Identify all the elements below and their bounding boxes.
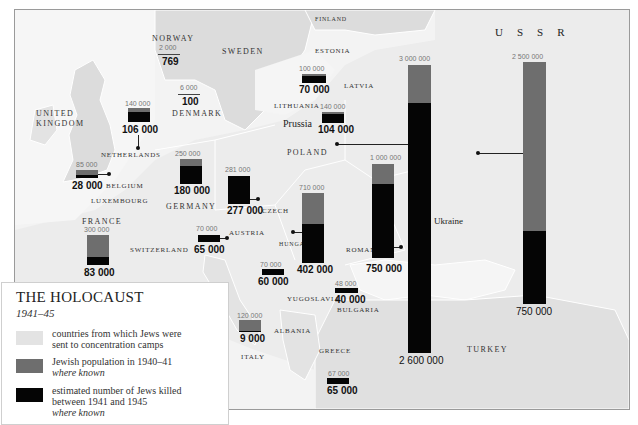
legend-swatch-jews-killed bbox=[16, 388, 43, 402]
belgium-population: 85 000 bbox=[76, 161, 97, 168]
label-latvia: LATVIA bbox=[344, 82, 374, 90]
norway-population: 2 000 bbox=[159, 44, 177, 51]
bulgaria-killed: 40 000 bbox=[335, 294, 366, 305]
legend-item-jewish-population: Jewish population in 1940–41 where known bbox=[52, 356, 224, 378]
romania-marker bbox=[399, 245, 403, 249]
poland-leader bbox=[337, 144, 408, 145]
lithuania-bar bbox=[322, 112, 344, 123]
denmark-killed: 100 bbox=[182, 96, 199, 107]
netherlands-bar bbox=[128, 108, 150, 122]
austria-bar bbox=[198, 235, 220, 242]
label-netherlands: NETHERLANDS bbox=[101, 151, 161, 159]
romania-population: 1 000 000 bbox=[370, 154, 401, 161]
label-prussia: Prussia bbox=[283, 118, 312, 129]
yugoslavia-bar bbox=[262, 269, 284, 275]
norway-divider bbox=[158, 54, 180, 55]
yugoslavia-killed: 60 000 bbox=[258, 276, 289, 287]
label-ukraine: Ukraine bbox=[434, 216, 463, 226]
label-italy: ITALY bbox=[241, 353, 265, 361]
ussr-population: 2 500 000 bbox=[512, 53, 543, 60]
label-czech: CZECH bbox=[262, 207, 289, 215]
latvia-killed: 70 000 bbox=[299, 84, 330, 95]
label-bulgaria: BULGARIA bbox=[337, 306, 380, 314]
map-legend: THE HOLOCAUST 1941–45 countries from whi… bbox=[1, 282, 229, 425]
germany-bar bbox=[180, 159, 202, 184]
netherlands-population: 140 000 bbox=[125, 100, 150, 107]
norway-killed: 769 bbox=[162, 56, 179, 67]
legend-item-jews-killed: estimated number of Jews killed between … bbox=[52, 385, 224, 418]
ussr-killed: 750 000 bbox=[516, 306, 552, 317]
france-bar bbox=[87, 235, 109, 265]
bulgaria-bar bbox=[335, 288, 358, 293]
hungary-bar bbox=[302, 193, 324, 263]
label-united-kingdom-line2: KINGDOM bbox=[36, 119, 84, 128]
label-united-kingdom-line1: UNITED bbox=[36, 109, 74, 118]
ussr-bar bbox=[523, 62, 546, 304]
label-poland: POLAND bbox=[287, 148, 328, 157]
label-france: FRANCE bbox=[82, 217, 122, 226]
label-finland: FINLAND bbox=[315, 16, 347, 22]
label-lithuania: LITHUANIA bbox=[274, 102, 320, 110]
label-greece: GREECE bbox=[319, 347, 351, 355]
ussr-marker bbox=[476, 151, 480, 155]
romania-killed: 750 000 bbox=[366, 263, 402, 274]
yugoslavia-population: 70 000 bbox=[260, 261, 281, 268]
denmark-population: 6 000 bbox=[180, 84, 198, 91]
greece-bar bbox=[327, 378, 349, 384]
france-population: 300 000 bbox=[84, 226, 109, 233]
czech-bar bbox=[228, 176, 250, 204]
label-belgium: BELGIUM bbox=[106, 182, 144, 190]
netherlands-killed: 106 000 bbox=[122, 124, 158, 135]
hungary-killed: 402 000 bbox=[297, 264, 333, 275]
bulgaria-population: 48 000 bbox=[335, 280, 356, 287]
label-germany: GERMANY bbox=[166, 202, 216, 211]
ussr-leader bbox=[478, 153, 523, 154]
italy-bar bbox=[239, 320, 261, 332]
legend-subtitle: 1941–45 bbox=[16, 307, 55, 319]
legend-swatch-deporting-countries bbox=[16, 331, 43, 345]
austria-marker bbox=[225, 236, 229, 240]
label-yugoslavia: YUGOSLAVIA bbox=[287, 295, 340, 303]
germany-population: 250 000 bbox=[175, 150, 200, 157]
czech-population: 281 000 bbox=[225, 166, 250, 173]
label-ussr: USSR bbox=[495, 26, 579, 38]
hungary-leader bbox=[294, 232, 302, 233]
legend-swatch-jewish-population bbox=[16, 359, 43, 373]
latvia-bar bbox=[302, 74, 326, 83]
label-switzerland: SWITZERLAND bbox=[130, 246, 189, 254]
italy-population: 120 000 bbox=[237, 312, 262, 319]
belgium-killed: 28 000 bbox=[72, 180, 103, 191]
legend-title: THE HOLOCAUST bbox=[16, 289, 144, 306]
poland-killed: 2 600 000 bbox=[399, 355, 444, 366]
greece-population: 67 000 bbox=[328, 370, 349, 377]
hungary-marker bbox=[291, 230, 295, 234]
denmark-divider bbox=[178, 94, 200, 95]
hungary-population: 710 000 bbox=[299, 184, 324, 191]
label-luxembourg: LUXEMBOURG bbox=[91, 197, 148, 205]
lithuania-population: 140 000 bbox=[320, 103, 345, 110]
lithuania-killed: 104 000 bbox=[318, 124, 354, 135]
austria-killed: 65 000 bbox=[194, 244, 225, 255]
label-estonia: ESTONIA bbox=[315, 47, 350, 55]
label-denmark: DENMARK bbox=[172, 109, 222, 118]
belgium-bar bbox=[76, 170, 98, 178]
france-killed: 83 000 bbox=[84, 267, 115, 278]
label-turkey: TURKEY bbox=[467, 345, 508, 354]
label-austria: AUSTRIA bbox=[229, 229, 265, 237]
label-sweden: SWEDEN bbox=[222, 47, 264, 56]
legend-item-deporting-countries: countries from which Jews were sent to c… bbox=[52, 328, 224, 350]
belgium-marker bbox=[107, 172, 111, 176]
netherlands-marker bbox=[136, 146, 140, 150]
italy-killed: 9 000 bbox=[240, 333, 265, 344]
label-norway: NORWAY bbox=[152, 34, 194, 43]
poland-bar bbox=[408, 65, 431, 353]
czech-marker bbox=[256, 197, 260, 201]
poland-population: 3 000 000 bbox=[399, 55, 430, 62]
latvia-population: 100 000 bbox=[299, 65, 324, 72]
label-albania: ALBANIA bbox=[274, 327, 311, 335]
romania-killed-bar bbox=[372, 184, 394, 258]
czech-killed: 277 000 bbox=[227, 205, 263, 216]
austria-population: 70 000 bbox=[196, 225, 217, 232]
poland-marker bbox=[335, 142, 339, 146]
greece-killed: 65 000 bbox=[327, 385, 358, 396]
